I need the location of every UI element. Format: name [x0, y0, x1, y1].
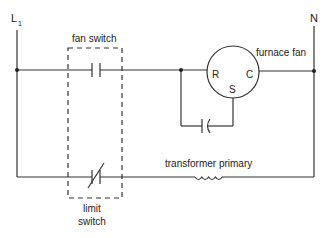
limit-switch-contact-icon [88, 163, 104, 188]
fan-switch-label: fan switch [72, 33, 116, 44]
limit-switch-label-line2: switch [78, 216, 106, 227]
wiring-diagram: L 1 N fan switch furnace fan R C S trans… [0, 0, 325, 238]
transformer-primary-coil-icon [195, 177, 222, 180]
l1-subscript: 1 [18, 20, 22, 27]
motor-s-label: S [229, 84, 236, 95]
motor-r-label: R [212, 69, 219, 80]
limit-switch-label-line1: limit [83, 203, 101, 214]
junction-dot [312, 69, 316, 73]
motor-c-label: C [246, 69, 253, 80]
fan-switch-contact-icon [92, 63, 100, 77]
junction-dot [179, 68, 183, 72]
circuit-schematic: L 1 N fan switch furnace fan R C S trans… [0, 0, 325, 238]
junction-dot [15, 68, 19, 72]
furnace-fan-label: furnace fan [256, 47, 306, 58]
transformer-primary-label: transformer primary [165, 158, 252, 169]
l1-label: L [11, 12, 17, 24]
neutral-label: N [310, 12, 318, 24]
